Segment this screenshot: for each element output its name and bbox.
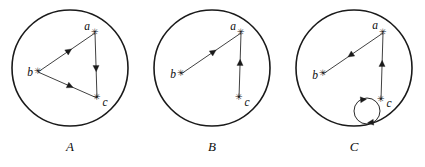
- panel-B-arrowhead-b-a: [209, 47, 218, 56]
- panel-A-vertex-marker-a: ✳: [91, 27, 99, 37]
- panel-B-vertex-label-a: a: [230, 20, 236, 32]
- panel-C-arrowhead-a-b: [346, 51, 355, 60]
- panel-C-self-loop-arrowhead-top: [360, 96, 367, 103]
- panel-C-vertex-label-c: c: [386, 97, 391, 109]
- panel-C-vertex-marker-a: ✳: [379, 27, 387, 37]
- panel-A-arrowhead-b-c: [66, 82, 74, 90]
- panel-C: ✳ a ✳ b ✳ c C: [284, 0, 425, 167]
- panel-B-vertex-label-c: c: [244, 96, 249, 108]
- panel-A-vertex-label-a: a: [84, 20, 90, 32]
- panel-B-label: B: [208, 139, 216, 154]
- directed-graph-figure: ✳ a ✳ b ✳ c A ✳ a ✳ b ✳ c B ✳ a ✳ b: [0, 0, 425, 167]
- panel-A-vertex-label-b: b: [27, 66, 33, 78]
- panel-A-label: A: [65, 139, 74, 154]
- panel-B-vertex-marker-a: ✳: [237, 27, 245, 37]
- panel-C-vertex-marker-b: ✳: [319, 68, 327, 78]
- panel-B-vertex-marker-c: ✳: [235, 92, 243, 102]
- panel-C-vertex-marker-c: ✳: [377, 94, 385, 104]
- panel-A-vertex-marker-b: ✳: [34, 66, 42, 76]
- panel-A: ✳ a ✳ b ✳ c A: [0, 0, 142, 167]
- panel-C-vertex-label-b: b: [312, 69, 318, 81]
- panel-B-arrowhead-c-a: [237, 59, 243, 65]
- panel-C-arrowhead-c-a: [379, 60, 385, 66]
- panel-C-label: C: [350, 139, 359, 154]
- panel-A-vertex-label-c: c: [102, 96, 107, 108]
- panel-B-vertex-marker-b: ✳: [177, 68, 185, 78]
- panel-B: ✳ a ✳ b ✳ c B: [142, 0, 284, 167]
- panel-A-arrowhead-a-c: [93, 65, 99, 71]
- panel-B-vertex-label-b: b: [170, 68, 176, 80]
- panel-A-arrowhead-b-a: [65, 46, 74, 55]
- panel-C-vertex-label-a: a: [372, 19, 378, 31]
- panel-A-vertex-marker-c: ✳: [93, 92, 101, 102]
